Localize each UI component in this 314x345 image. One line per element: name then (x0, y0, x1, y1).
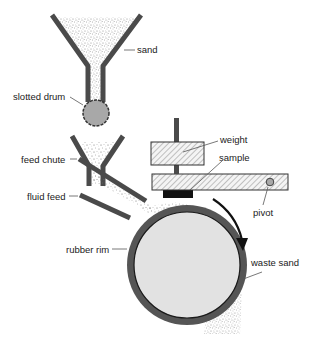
sample-block (163, 190, 193, 198)
slotted-drum (83, 100, 109, 126)
label-waste-sand: waste sand (251, 257, 299, 268)
label-weight: weight (220, 134, 247, 145)
weight-block (151, 142, 204, 165)
label-sample: sample (219, 152, 250, 163)
fluid-feed-pipe (80, 195, 130, 218)
wheel-disc (134, 212, 240, 318)
label-feed-chute: feed chute (21, 154, 65, 165)
sand-hopper (52, 15, 141, 102)
abrasion-wheel (127, 205, 247, 325)
sand-fill (57, 17, 138, 101)
pivot-point (266, 178, 274, 186)
label-fluid-feed: fluid feed (27, 191, 66, 202)
label-sand: sand (137, 44, 158, 55)
label-pivot: pivot (253, 207, 273, 218)
label-slotted-drum: slotted drum (13, 91, 65, 102)
label-rubber-rim: rubber rim (66, 244, 109, 255)
